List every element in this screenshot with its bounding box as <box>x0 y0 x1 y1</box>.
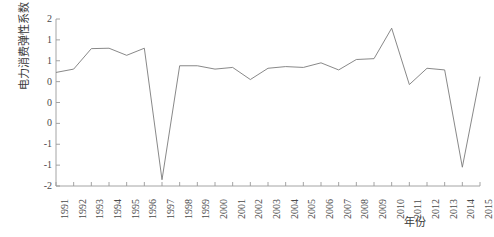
data-series-line <box>56 28 480 180</box>
axis-lines <box>56 19 480 186</box>
axis-tick-marks <box>56 19 480 186</box>
